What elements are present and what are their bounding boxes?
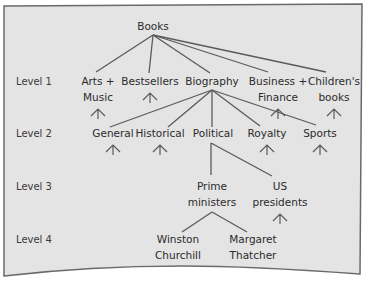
node-label-line: Thatcher xyxy=(229,249,278,261)
node-label-line: Books xyxy=(137,20,169,32)
node-label-line: Political xyxy=(193,127,233,139)
node-label-line: Bestsellers xyxy=(121,75,178,87)
node-label-line: Historical xyxy=(135,127,184,139)
node-biography[interactable]: Biography xyxy=(185,75,239,87)
node-label-line: Biography xyxy=(185,75,239,87)
node-label-line: Winston xyxy=(157,233,199,245)
node-royalty[interactable]: Royalty xyxy=(247,127,286,139)
node-label-line: Children's xyxy=(308,75,360,87)
book-hierarchy-diagram: Level 1Level 2Level 3Level 4 BooksArts +… xyxy=(0,0,366,281)
node-label-line: Margaret xyxy=(229,233,276,245)
node-label-line: presidents xyxy=(253,196,308,208)
node-label-line: ministers xyxy=(188,196,237,208)
level-label: Level 1 xyxy=(16,76,52,87)
level-label: Level 3 xyxy=(16,181,52,192)
node-historical[interactable]: Historical xyxy=(135,127,184,139)
node-general[interactable]: General xyxy=(92,127,133,139)
level-label: Level 4 xyxy=(16,234,52,245)
level-label: Level 2 xyxy=(16,128,52,139)
node-sports[interactable]: Sports xyxy=(303,127,337,139)
node-label-line: Arts + xyxy=(81,75,114,87)
node-label-line: books xyxy=(318,91,349,103)
node-books[interactable]: Books xyxy=(137,20,169,32)
node-label-line: Churchill xyxy=(155,249,201,261)
node-label-line: Royalty xyxy=(247,127,286,139)
node-label-line: Finance xyxy=(258,91,298,103)
node-political[interactable]: Political xyxy=(193,127,233,139)
node-label-line: Sports xyxy=(303,127,337,139)
node-label-line: Business + xyxy=(249,75,307,87)
node-label-line: Prime xyxy=(197,180,227,192)
node-label-line: Music xyxy=(83,91,113,103)
node-label-line: US xyxy=(273,180,288,192)
node-bestsellers[interactable]: Bestsellers xyxy=(121,75,178,87)
node-label-line: General xyxy=(92,127,133,139)
